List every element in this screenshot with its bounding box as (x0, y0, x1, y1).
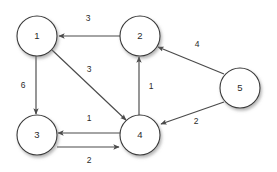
node-1[interactable]: 1 (17, 16, 57, 56)
node-label-5: 5 (237, 82, 242, 93)
node-label-1: 1 (34, 30, 39, 41)
graph-canvas: 12345 36314212 (0, 0, 277, 172)
edge-weight-5-2: 4 (195, 39, 200, 49)
edge-weight-2-1: 3 (86, 13, 91, 23)
edge-5-to-2 (158, 47, 224, 74)
edge-weight-1-4: 3 (87, 64, 92, 74)
edge-5-to-4 (161, 102, 224, 124)
node-label-2: 2 (137, 30, 142, 41)
node-label-3: 3 (34, 129, 39, 140)
edge-1-to-4 (52, 50, 126, 120)
edge-weight-4-2: 1 (149, 81, 154, 91)
edge-weight-3-4: 2 (87, 155, 92, 165)
node-4[interactable]: 4 (120, 115, 160, 155)
edge-weight-4-3: 1 (87, 113, 92, 123)
edge-weight-1-3: 6 (21, 80, 26, 90)
node-3[interactable]: 3 (17, 115, 57, 155)
edge-weight-5-4: 2 (194, 116, 199, 126)
node-label-4: 4 (137, 129, 142, 140)
graph-figure: 12345 36314212 (0, 0, 277, 172)
node-5[interactable]: 5 (220, 68, 260, 108)
node-2[interactable]: 2 (120, 16, 160, 56)
